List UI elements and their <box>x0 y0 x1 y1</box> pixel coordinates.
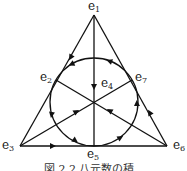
arrow-icon <box>91 84 97 90</box>
node-label-e4: e4 <box>101 77 113 91</box>
node-label-e6: e6 <box>173 139 185 153</box>
arrow-icon <box>134 100 140 106</box>
arrow-icon <box>105 57 113 65</box>
figure-caption: 図 2.2 八元数の積 <box>44 160 135 171</box>
arrow-icon <box>48 111 55 118</box>
fano-plane-diagram <box>0 0 187 171</box>
arrow-icon <box>50 143 56 149</box>
node-label-e2: e2 <box>40 71 52 85</box>
node-label-e1: e1 <box>88 0 100 14</box>
node-label-e3: e3 <box>2 139 14 153</box>
node-label-e7: e7 <box>135 71 147 85</box>
